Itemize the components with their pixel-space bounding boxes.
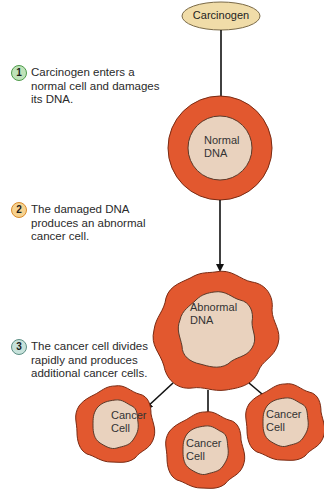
step-1-badge: 1 bbox=[11, 65, 27, 81]
cancer-cell-middle-line1: Cancer bbox=[186, 437, 221, 450]
step-3-text: The cancer cell divides rapidly and prod… bbox=[31, 340, 161, 381]
step-3: 3 The cancer cell divides rapidly and pr… bbox=[11, 340, 161, 381]
step-2: 2 The damaged DNA produces an abnormal c… bbox=[11, 203, 161, 244]
normal-cell-label-line2: DNA bbox=[204, 147, 239, 160]
cancer-cell-left-line2: Cell bbox=[111, 422, 146, 435]
cancer-cell-left-label: Cancer Cell bbox=[111, 409, 146, 435]
cancer-cell-middle-line2: Cell bbox=[186, 450, 221, 463]
abnormal-cell-label-line2: DNA bbox=[190, 314, 237, 327]
step-2-text: The damaged DNA produces an abnormal can… bbox=[31, 203, 161, 244]
step-2-badge: 2 bbox=[11, 202, 27, 218]
step-3-badge: 3 bbox=[11, 339, 27, 355]
normal-cell-label: Normal DNA bbox=[204, 134, 239, 160]
normal-cell-label-line1: Normal bbox=[204, 134, 239, 147]
carcinogen-label: Carcinogen bbox=[182, 9, 260, 21]
abnormal-cell-label-line1: Abnormal bbox=[190, 301, 237, 314]
abnormal-cell-label: Abnormal DNA bbox=[190, 301, 237, 327]
cancer-cell-right-line2: Cell bbox=[266, 421, 301, 434]
step-1-text: Carcinogen enters a normal cell and dama… bbox=[31, 66, 161, 107]
cancer-cell-left-line1: Cancer bbox=[111, 409, 146, 422]
step-1: 1 Carcinogen enters a normal cell and da… bbox=[11, 66, 161, 107]
cancer-cell-right-label: Cancer Cell bbox=[266, 408, 301, 434]
abnormal-cell bbox=[153, 271, 279, 390]
cancer-cell-right-line1: Cancer bbox=[266, 408, 301, 421]
cancer-cell-middle-label: Cancer Cell bbox=[186, 437, 221, 463]
